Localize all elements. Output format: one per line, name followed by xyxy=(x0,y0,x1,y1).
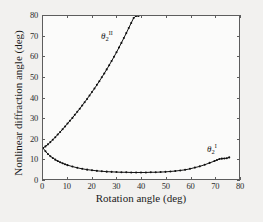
data-point xyxy=(44,145,46,147)
data-point xyxy=(130,22,132,24)
data-point xyxy=(74,114,76,116)
data-point xyxy=(194,167,196,169)
y-axis-tick-right xyxy=(237,118,240,119)
data-point xyxy=(98,80,100,82)
y-axis-tick-right xyxy=(237,56,240,57)
data-point xyxy=(47,143,49,145)
series-points xyxy=(43,16,230,174)
data-point xyxy=(189,168,191,170)
data-point xyxy=(204,164,206,166)
data-point xyxy=(150,171,152,173)
data-point xyxy=(111,171,113,173)
data-point xyxy=(115,51,117,53)
y-axis-tick xyxy=(42,36,45,37)
data-point xyxy=(111,60,113,62)
data-point xyxy=(221,158,223,160)
data-point xyxy=(62,162,64,164)
data-point xyxy=(66,123,68,125)
x-tick-label: 10 xyxy=(63,181,71,191)
data-point xyxy=(69,120,71,122)
data-point xyxy=(59,131,61,133)
data-point xyxy=(76,111,78,113)
data-point xyxy=(52,139,54,141)
y-axis-tick xyxy=(42,56,45,57)
curve-label-theta2-I: θ2I xyxy=(207,143,217,156)
data-point xyxy=(106,68,108,70)
y-axis-tick-right xyxy=(237,180,240,181)
data-point xyxy=(108,64,110,66)
x-axis-tick-top xyxy=(240,15,241,18)
data-point xyxy=(115,171,117,173)
x-tick-label: 20 xyxy=(87,181,95,191)
theta-superscript-upper: II xyxy=(109,30,113,36)
data-point xyxy=(79,108,81,110)
data-point xyxy=(96,170,98,172)
data-point xyxy=(91,169,93,171)
y-axis-tick-right xyxy=(237,36,240,37)
x-axis-tick xyxy=(116,177,117,180)
data-point xyxy=(49,141,51,143)
data-point xyxy=(130,171,132,173)
data-point xyxy=(62,128,64,130)
data-point xyxy=(169,170,171,172)
y-axis-tick-right xyxy=(237,77,240,78)
y-axis-label: Nonlinear diffraction angle (deg) xyxy=(12,18,24,188)
data-point xyxy=(145,171,147,173)
data-point xyxy=(91,91,93,93)
data-point xyxy=(71,166,73,168)
data-point xyxy=(64,125,66,127)
y-axis-tick-right xyxy=(237,159,240,160)
data-point xyxy=(155,171,157,173)
x-axis-tick xyxy=(215,177,216,180)
data-point xyxy=(71,117,73,119)
series-lines xyxy=(43,16,229,172)
data-point xyxy=(84,101,86,103)
data-point xyxy=(133,17,135,19)
data-point xyxy=(223,157,225,159)
data-point xyxy=(128,27,130,29)
data-point xyxy=(216,159,218,161)
data-point xyxy=(64,163,66,165)
x-axis-tick xyxy=(166,177,167,180)
y-axis-tick xyxy=(42,118,45,119)
data-point xyxy=(57,160,59,162)
data-point xyxy=(140,171,142,173)
data-point xyxy=(101,170,103,172)
data-point xyxy=(96,84,98,86)
data-point xyxy=(89,94,91,96)
x-axis-tick xyxy=(240,177,241,180)
y-axis-tick xyxy=(42,159,45,160)
data-point xyxy=(174,170,176,172)
x-axis-tick-top xyxy=(191,15,192,18)
data-point xyxy=(199,165,201,167)
x-axis-tick-top xyxy=(141,15,142,18)
data-point xyxy=(218,158,220,160)
data-point xyxy=(125,171,127,173)
x-tick-label: 30 xyxy=(112,181,120,191)
data-point xyxy=(228,156,230,158)
x-tick-label: 0 xyxy=(40,181,44,191)
data-point xyxy=(59,161,61,163)
data-point xyxy=(81,104,83,106)
data-point xyxy=(160,171,162,173)
x-tick-label: 80 xyxy=(236,181,244,191)
y-axis-tick xyxy=(42,15,45,16)
data-point xyxy=(213,160,215,162)
x-axis-tick xyxy=(141,177,142,180)
x-axis-tick xyxy=(92,177,93,180)
x-axis-tick xyxy=(67,177,68,180)
y-axis-tick xyxy=(42,98,45,99)
x-tick-label: 50 xyxy=(162,181,170,191)
theta-superscript-lower: I xyxy=(215,143,217,149)
series-line-theta_2_I xyxy=(43,148,229,172)
data-point xyxy=(49,155,51,157)
data-point xyxy=(120,171,122,173)
data-point xyxy=(44,150,46,152)
data-point xyxy=(86,169,88,171)
x-axis-tick-top xyxy=(215,15,216,18)
data-point xyxy=(103,72,105,74)
data-point xyxy=(57,134,59,136)
data-point xyxy=(47,153,49,155)
data-point xyxy=(54,159,56,161)
x-axis-tick xyxy=(191,177,192,180)
